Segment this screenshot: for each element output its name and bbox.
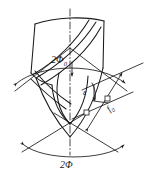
feed-node-marker-upper [105,96,110,101]
margin-curve-left [52,85,70,124]
flute-helix-outer-upper [36,22,96,78]
cone-angle-label: 2Φ [60,160,73,170]
epsilon-label: ε [83,88,87,97]
body-right-edge [103,21,104,68]
feed-extension-line-lower [72,92,133,119]
cone-angle-right-ray [54,113,118,152]
caption-strip [0,173,148,180]
flute-helix-inner-upper [41,27,101,85]
body-top-edge [35,18,104,24]
point-cone-right-flank [70,68,103,137]
drill-geometry-drawing [0,0,148,180]
feed-node-marker-lower [84,110,89,115]
drill-geometry-figure: 2Φ0 2Φ ε f0 [0,0,148,180]
cone-angle-dimension [22,113,124,157]
cone-angle-left-ray [22,113,86,152]
point-cone-left-flank [36,78,70,137]
point-angle-label: 2Φ0 [51,55,67,68]
body-left-edge [31,24,35,73]
feed-extension-line-upper [82,63,143,90]
